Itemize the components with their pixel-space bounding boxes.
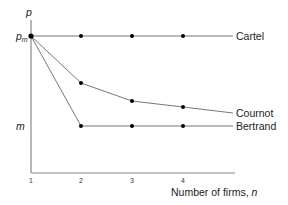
bertrand-line — [31, 36, 233, 126]
y-axis-label: p — [25, 6, 32, 18]
chart: p pm m Cartel Cournot Bertrand 1 2 3 4 N… — [0, 0, 288, 205]
x-tick-4: 4 — [181, 177, 185, 184]
cournot-label: Cournot — [236, 107, 273, 119]
data-points — [28, 33, 185, 128]
x-tick-1: 1 — [29, 177, 33, 184]
bertrand-label: Bertrand — [236, 120, 276, 132]
x-tick-3: 3 — [130, 177, 134, 184]
cartel-label: Cartel — [236, 30, 264, 42]
pm-label: pm — [15, 30, 28, 43]
x-tick-2: 2 — [79, 177, 83, 184]
x-axis-label: Number of firms, n — [171, 186, 258, 198]
m-label: m — [16, 120, 25, 132]
